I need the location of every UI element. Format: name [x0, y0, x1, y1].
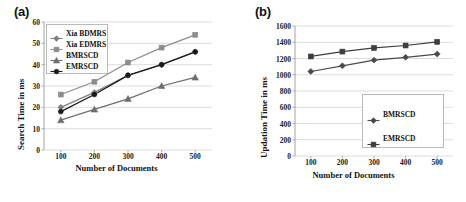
panel-a-legend: Xia BDMRSXia EDMRSBMRSCDEMRSCD: [46, 24, 108, 74]
legend-item-bmrscd[interactable]: BMRSCD: [50, 50, 104, 61]
y-tick-label: 200: [280, 135, 291, 144]
legend-label: EMRSCD: [383, 135, 416, 143]
legend-item-emrscd[interactable]: EMRSCD: [367, 127, 439, 151]
x-tick-label: 100: [55, 152, 66, 161]
y-tick-label: 1600: [276, 22, 291, 31]
x-tick-label: 300: [122, 152, 133, 161]
panel-a-x-axis-label: Number of Documents: [0, 163, 233, 173]
x-tick-label: 100: [305, 158, 316, 167]
diamond-marker-icon: [50, 29, 63, 38]
y-tick-label: 400: [280, 119, 291, 128]
x-tick-label: 400: [400, 158, 411, 167]
x-tick-label: 500: [432, 158, 443, 167]
figure-two-panel-line-charts: (a) Search Time in ms 0102030405060 1002…: [0, 0, 466, 202]
x-tick-label: 200: [89, 152, 100, 161]
y-tick-label: 1000: [276, 70, 291, 79]
square-marker-icon: [50, 40, 63, 49]
legend-item-xia-edmrs[interactable]: Xia EDMRS: [50, 39, 104, 50]
chart-panel-a: (a) Search Time in ms 0102030405060 1002…: [0, 0, 233, 202]
y-tick-label: 30: [33, 82, 41, 91]
panel-b-x-tick-labels: 100200300400500: [233, 158, 466, 170]
x-tick-label: 200: [337, 158, 348, 167]
y-tick-label: 50: [33, 39, 41, 48]
triangle-marker-icon: [50, 51, 63, 60]
y-tick-label: 1200: [276, 54, 291, 63]
circle-marker-icon: [50, 62, 63, 71]
legend-item-bmrscd[interactable]: BMRSCD: [367, 103, 439, 127]
y-tick-label: 60: [33, 18, 41, 27]
y-tick-label: 1400: [276, 38, 291, 47]
legend-label: BMRSCD: [383, 111, 416, 119]
panel-b-legend: BMRSCDEMRSCD: [362, 94, 444, 148]
legend-label: BMRSCD: [66, 52, 99, 60]
legend-label: EMRSCD: [66, 63, 99, 71]
diamond-marker-icon: [367, 111, 380, 120]
panel-b-x-axis-label: Number of Documents: [237, 170, 466, 180]
legend-item-emrscd[interactable]: EMRSCD: [50, 61, 104, 72]
legend-item-xia-bdmrs[interactable]: Xia BDMRS: [50, 28, 104, 39]
y-tick-label: 800: [280, 87, 291, 96]
legend-label: Xia BDMRS: [66, 30, 106, 38]
y-tick-label: 600: [280, 103, 291, 112]
legend-label: Xia EDMRS: [66, 41, 106, 49]
x-tick-label: 400: [156, 152, 167, 161]
chart-panel-b: (b) Updation Time in ms 0200400600800100…: [233, 0, 466, 202]
y-tick-label: 20: [33, 103, 41, 112]
square-marker-icon: [367, 135, 380, 144]
y-tick-label: 10: [33, 124, 41, 133]
y-tick-label: 40: [33, 60, 41, 69]
x-tick-label: 300: [368, 158, 379, 167]
x-tick-label: 500: [190, 152, 201, 161]
